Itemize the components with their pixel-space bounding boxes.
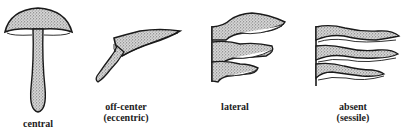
stipe-attachment-diagram: central off-center (eccentric) lateral a… <box>0 0 401 131</box>
central-mushroom-illustration <box>5 8 72 112</box>
label-eccentric-line2: (eccentric) <box>96 112 156 123</box>
label-sessile-line2: (sessile) <box>325 112 381 123</box>
label-lateral-text: lateral <box>210 101 260 112</box>
label-central-text: central <box>10 118 66 129</box>
eccentric-mushroom-illustration <box>96 30 180 83</box>
label-eccentric-line1: off-center <box>96 101 156 112</box>
lateral-mushroom-illustration <box>212 13 285 82</box>
sessile-mushroom-illustration <box>316 26 399 86</box>
label-lateral: lateral <box>210 101 260 112</box>
label-eccentric: off-center (eccentric) <box>96 101 156 123</box>
label-sessile-line1: absent <box>325 101 381 112</box>
label-central: central <box>10 118 66 129</box>
label-sessile: absent (sessile) <box>325 101 381 123</box>
